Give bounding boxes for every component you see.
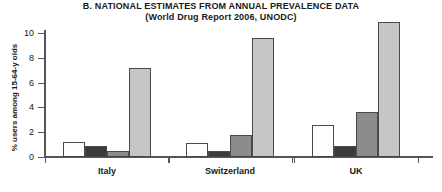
category-tick [292, 158, 293, 163]
y-tick-label-wrap: 4 [14, 107, 34, 108]
bar-uk-series-4 [378, 22, 400, 157]
y-tick-label: 0 [14, 152, 34, 162]
y-axis-tick [38, 33, 44, 34]
bar-italy-series-2 [85, 146, 107, 157]
y-tick-label-wrap: 0 [14, 157, 34, 158]
y-axis-tick [38, 83, 44, 84]
bar-uk-series-1 [312, 125, 334, 157]
category-label-switzerland: Switzerland [205, 166, 255, 176]
y-axis-tick [38, 132, 44, 133]
bar-switzerland-series-4 [252, 38, 274, 157]
plot-area: % users among 15-64-y olds 0246810 Italy… [0, 0, 442, 192]
category-label-uk: UK [350, 166, 363, 176]
bar-uk-series-3 [356, 112, 378, 157]
y-tick-label: 6 [14, 78, 34, 88]
y-tick-label-wrap: 6 [14, 83, 34, 84]
y-tick-label-wrap: 10 [14, 33, 34, 34]
chart-figure: B. NATIONAL ESTIMATES FROM ANNUAL PREVAL… [0, 0, 442, 192]
bar-uk-series-2 [334, 146, 356, 157]
category-label-italy: Italy [98, 166, 116, 176]
y-tick-label: 8 [14, 53, 34, 63]
bar-italy-series-3 [107, 151, 129, 157]
y-tick-label-wrap: 2 [14, 132, 34, 133]
category-tick [418, 158, 419, 163]
y-axis-tick [38, 58, 44, 59]
category-tick [294, 158, 295, 163]
bar-italy-series-1 [63, 142, 85, 157]
y-tick-label: 2 [14, 127, 34, 137]
y-axis-line [44, 30, 46, 158]
y-axis-tick [38, 157, 44, 158]
category-tick [45, 158, 46, 163]
category-tick [169, 158, 170, 163]
bar-switzerland-series-3 [230, 135, 252, 157]
category-tick [168, 158, 169, 163]
bar-switzerland-series-1 [186, 143, 208, 157]
y-tick-label: 10 [14, 28, 34, 38]
y-tick-label: 4 [14, 102, 34, 112]
bar-switzerland-series-2 [208, 151, 230, 157]
y-axis-tick [38, 107, 44, 108]
bar-italy-series-4 [129, 68, 151, 157]
y-tick-label-wrap: 8 [14, 58, 34, 59]
